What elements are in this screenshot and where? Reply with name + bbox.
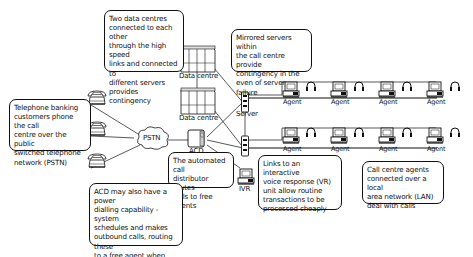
headset-icon	[354, 82, 364, 91]
agent-computer-icon	[283, 128, 299, 143]
agent-label: Agent	[283, 145, 301, 153]
server-label: Server	[236, 110, 258, 118]
agent-label: Agent	[379, 98, 397, 106]
callout-power-dialling: ACD may also have a power dialling capab…	[89, 183, 183, 246]
data-centre-icon	[181, 88, 215, 114]
callout-mirrored-servers: Mirrored servers within the call centre …	[231, 29, 312, 72]
headset-icon	[402, 128, 412, 137]
acd-icon	[188, 130, 204, 147]
data-centre-icon	[181, 46, 215, 72]
callout-ivr-links: Links to an interactive voice response (…	[258, 155, 342, 210]
agent-computer-icon	[379, 128, 395, 143]
headset-icon	[402, 82, 412, 91]
ivr-computer-icon	[238, 169, 254, 184]
agent-label: Agent	[379, 145, 397, 153]
headset-icon	[306, 128, 316, 137]
pstn-label: PSTN	[143, 134, 160, 142]
agent-computer-icon	[427, 82, 443, 97]
headset-icon	[354, 128, 364, 137]
agent-computer-icon	[379, 82, 395, 97]
callout-telephone-banking: Telephone banking customers phone the ca…	[9, 99, 91, 151]
agent-computer-icon	[331, 128, 347, 143]
agent-label: Agent	[427, 145, 445, 153]
agent-computer-icon	[331, 82, 347, 97]
agent-computer-icon	[427, 128, 443, 143]
headset-icon	[450, 128, 460, 137]
agent-label: Agent	[283, 98, 301, 106]
data-centre-label: Data centre	[179, 114, 218, 122]
telephone-icon	[88, 91, 106, 104]
callout-data-centres: Two data centres connected to each other…	[104, 10, 184, 72]
server-icon	[242, 136, 249, 156]
ivr-label: IVR	[239, 185, 250, 193]
agent-label: Agent	[331, 145, 349, 153]
telephone-icon	[88, 154, 106, 167]
agent-label: Agent	[331, 98, 349, 106]
callout-lan-agents: Call centre agents connected over a loca…	[362, 161, 444, 204]
headset-icon	[306, 82, 316, 91]
headset-icon	[450, 82, 460, 91]
data-centre-label: Data centre	[179, 72, 218, 80]
agent-computer-icon	[283, 82, 299, 97]
agent-label: Agent	[427, 98, 445, 106]
